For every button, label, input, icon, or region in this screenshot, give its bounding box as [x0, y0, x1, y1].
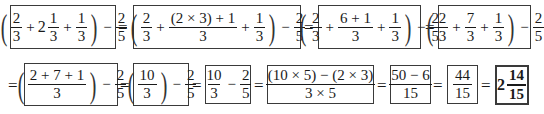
fraction: 1415: [507, 67, 526, 103]
plus-sign: +: [63, 19, 71, 36]
open-paren: (: [127, 67, 134, 103]
fraction: 13: [493, 10, 505, 45]
step-7-box: 103 − 25: [205, 65, 251, 104]
fraction: 23: [11, 10, 23, 45]
fraction: 6 + 13: [338, 10, 373, 45]
step-10-box: 4415: [447, 65, 478, 104]
fraction: (2 × 3) + 13: [169, 10, 237, 45]
fraction: (10 × 5) − (2 × 3)3 × 5: [266, 67, 375, 102]
minus-sign: −: [173, 76, 181, 93]
fraction: 103: [138, 67, 157, 102]
close-paren: ): [160, 67, 167, 103]
step-3-box: ( 23 + 6 + 13 + 13 ) − 25: [318, 5, 421, 49]
open-paren: (: [300, 9, 307, 45]
fraction: 13: [254, 10, 266, 45]
close-paren: ): [269, 9, 276, 45]
plus-sign: +: [241, 19, 249, 36]
close-paren: ): [91, 9, 98, 45]
fraction: 13: [76, 10, 88, 45]
fraction: 23: [141, 10, 153, 45]
plus-sign: +: [452, 19, 460, 36]
step-2-box: ( 23 + (2 × 3) + 13 + 13 ) − 25: [133, 5, 301, 49]
step-9-box: 50 − 615: [390, 65, 431, 104]
fraction: 23: [437, 10, 449, 45]
plus-sign: +: [377, 19, 385, 36]
minus-sign: −: [281, 19, 289, 36]
open-paren: (: [131, 9, 138, 45]
fraction: 13: [48, 10, 60, 45]
step-1-box: ( 23 + 2 13 + 13 ) − 25: [10, 5, 116, 49]
fraction: 13: [389, 10, 401, 45]
minus-sign: −: [520, 19, 528, 36]
plus-sign: +: [326, 19, 334, 36]
fraction: 50 − 615: [389, 67, 431, 102]
whole-number: 2: [38, 18, 46, 36]
equals-sign: =: [377, 77, 387, 94]
fraction: 4415: [453, 67, 472, 102]
final-answer-box: 2 1415: [495, 65, 529, 105]
minus-sign: −: [102, 76, 110, 93]
equals-sign: =: [433, 77, 443, 94]
fraction: 25: [533, 10, 544, 45]
step-8-box: (10 × 5) − (2 × 3)3 × 5: [267, 65, 374, 104]
equals-sign: =: [192, 77, 202, 94]
fraction: 73: [465, 10, 477, 45]
step-5-box: ( 2 + 7 + 13 ) − 25: [24, 63, 118, 106]
open-paren: (: [18, 67, 25, 103]
step-4-box: ( 23 + 73 + 13 ) − 25: [438, 5, 531, 49]
equals-sign: =: [118, 19, 128, 36]
open-paren: (: [426, 9, 433, 45]
equals-sign: =: [8, 77, 18, 94]
open-paren: (: [0, 9, 7, 45]
equals-sign: =: [254, 77, 264, 94]
close-paren: ): [90, 67, 97, 103]
fraction: 25: [240, 67, 252, 102]
close-paren: ): [405, 9, 412, 45]
fraction: 23: [310, 10, 322, 45]
equals-sign: =: [481, 77, 491, 94]
whole-number: 2: [497, 76, 505, 94]
fraction: 2 + 7 + 13: [28, 67, 86, 102]
plus-sign: +: [480, 19, 488, 36]
plus-sign: +: [156, 19, 164, 36]
fraction: 103: [205, 67, 224, 102]
step-6-box: ( 103 ) − 25: [133, 63, 189, 106]
minus-sign: −: [103, 19, 111, 36]
minus-sign: −: [228, 76, 236, 93]
plus-sign: +: [26, 19, 34, 36]
close-paren: ): [508, 9, 515, 45]
